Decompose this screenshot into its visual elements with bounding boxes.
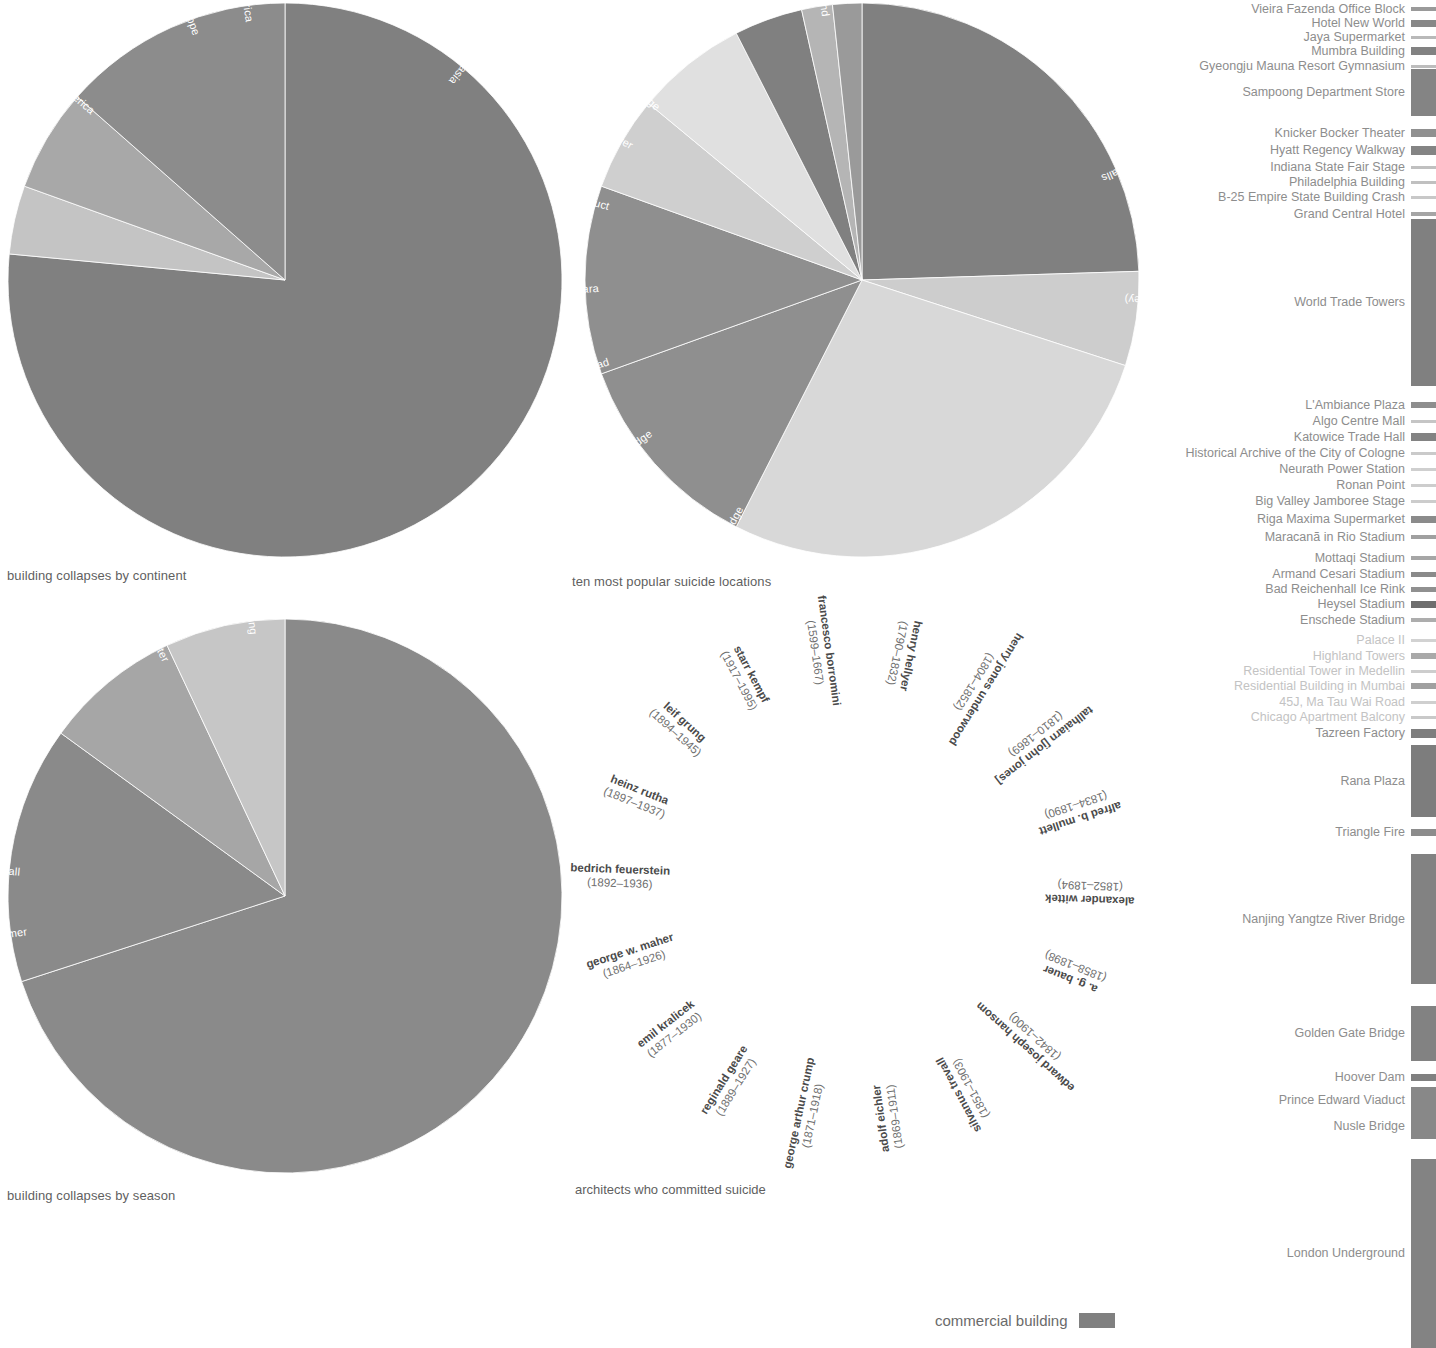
legend-key-commercial-building: commercial building [935,1312,1115,1329]
legend-item[interactable]: Enschede Stadium [1130,618,1436,622]
legend-item-bar [1411,166,1436,169]
legend-item-bar [1411,129,1436,137]
legend-item[interactable]: Heysel Stadium [1130,601,1436,608]
legend-item-bar [1411,535,1436,539]
legend-item-bar [1411,65,1436,68]
legend-item[interactable]: Triangle Fire [1130,829,1436,836]
pie-suicide-svg: london undergroundniagra fallsthe gap (s… [572,2,1152,558]
legend-item-bar [1411,556,1436,560]
legend-item-bar [1411,701,1436,704]
legend-item-bar [1411,516,1436,523]
legend-item-bar [1411,670,1436,673]
legend-item[interactable]: Armand Cesari Stadium [1130,572,1436,577]
legend-item-label: Mottaqi Stadium [1315,551,1411,565]
legend-item-label: 45J, Ma Tau Wai Road [1279,695,1411,709]
legend-item-label: Mumbra Building [1311,44,1411,58]
legend-item-bar [1411,500,1436,503]
legend-item-label: Algo Centre Mall [1313,414,1411,428]
legend-item[interactable]: Jaya Supermarket [1130,36,1436,39]
legend-item-label: Knicker Bocker Theater [1275,126,1411,140]
legend-item[interactable]: Bad Reichenhall Ice Rink [1130,587,1436,592]
legend-item-label: Indiana State Fair Stage [1270,160,1411,174]
legend-item[interactable]: Residential Building in Mumbai [1130,683,1436,689]
legend-item-label: Triangle Fire [1335,825,1411,839]
legend-item[interactable]: L'Ambiance Plaza [1130,402,1436,408]
incident-legend-list: Vieira Fazenda Office BlockHotel New Wor… [1130,0,1436,1344]
legend-item[interactable]: Highland Towers [1130,653,1436,659]
legend-item[interactable]: London Underground [1130,1159,1436,1348]
legend-item-label: Sampoong Department Store [1242,85,1411,99]
legend-item[interactable]: Katowice Trade Hall [1130,433,1436,441]
legend-item-label: B-25 Empire State Building Crash [1218,190,1411,204]
caption-architects: architects who committed suicide [575,1182,766,1197]
legend-item-label: Enschede Stadium [1300,613,1411,627]
pie-continent-svg: asiasouth americaeuropenorth america [4,2,564,558]
caption-suicide: ten most popular suicide locations [572,574,771,589]
legend-item-bar [1411,181,1436,184]
legend-item[interactable]: Residential Tower in Medellin [1130,670,1436,673]
legend-item[interactable]: Knicker Bocker Theater [1130,129,1436,137]
legend-item[interactable]: Mumbra Building [1130,47,1436,55]
legend-item-label: Tazreen Factory [1315,726,1411,740]
legend-item-label: Heysel Stadium [1317,597,1411,611]
chart-ten-most-popular-suicide-locations: london undergroundniagra fallsthe gap (s… [572,2,1152,602]
legend-item-label: London Underground [1287,1246,1411,1260]
caption-continent: building collapses by continent [7,568,186,583]
legend-item[interactable]: Riga Maxima Supermarket [1130,516,1436,523]
legend-item-label: L'Ambiance Plaza [1305,398,1411,412]
legend-item[interactable]: 45J, Ma Tau Wai Road [1130,701,1436,704]
chart-building-collapses-by-season: springsummerfallwinter building collapse… [4,618,564,1218]
legend-item[interactable]: Historical Archive of the City of Cologn… [1130,452,1436,455]
legend-item[interactable]: Neurath Power Station [1130,468,1436,471]
legend-item-bar [1411,1113,1436,1139]
legend-item-label: World Trade Towers [1294,295,1411,309]
legend-item[interactable]: Hotel New World [1130,20,1436,27]
legend-item[interactable]: Ronan Point [1130,484,1436,487]
legend-item-bar [1411,1159,1436,1348]
legend-item-bar [1411,829,1436,836]
legend-item-bar [1411,618,1436,622]
legend-item[interactable]: Palace II [1130,639,1436,642]
pie-slice-label: fall [5,864,21,877]
legend-item[interactable]: Chicago Apartment Balcony [1130,716,1436,719]
chart-building-collapses-by-continent: asiasouth americaeuropenorth america bui… [4,2,564,602]
chart-architects-who-committed-suicide: francesco borromini(1599–1667)henry hell… [570,600,1130,1220]
legend-item-label: Residential Building in Mumbai [1234,679,1411,693]
pie-slice-label: nusle bridge [607,64,662,113]
legend-item[interactable]: Algo Centre Mall [1130,420,1436,423]
legend-item-bar [1411,572,1436,577]
legend-item-bar [1411,587,1436,592]
legend-item[interactable]: World Trade Towers [1130,219,1436,386]
legend-item-label: Rana Plaza [1340,774,1411,788]
legend-item[interactable]: Philadelphia Building [1130,181,1436,184]
legend-item-bar [1411,683,1436,689]
legend-item-bar [1411,69,1436,116]
legend-item[interactable]: Mottaqi Stadium [1130,556,1436,560]
legend-item[interactable]: Tazreen Factory [1130,729,1436,738]
legend-item[interactable]: Big Valley Jamboree Stage [1130,500,1436,503]
legend-item[interactable]: Rana Plaza [1130,745,1436,817]
legend-item-bar [1411,745,1436,817]
legend-item[interactable]: Nusle Bridge [1130,1113,1436,1139]
legend-item[interactable]: Hyatt Regency Walkway [1130,146,1436,155]
legend-item-bar [1411,468,1436,471]
legend-item[interactable]: Sampoong Department Store [1130,69,1436,116]
legend-item-label: Nusle Bridge [1333,1119,1411,1133]
legend-item[interactable]: B-25 Empire State Building Crash [1130,196,1436,199]
legend-item[interactable]: Prince Edward Viaduct [1130,1087,1436,1113]
legend-item[interactable]: Maracanã in Rio Stadium [1130,535,1436,539]
legend-item[interactable]: Gyeongju Mauna Resort Gymnasium [1130,65,1436,68]
legend-item-bar [1411,601,1436,608]
legend-item-bar [1411,716,1436,719]
legend-item-label: Maracanã in Rio Stadium [1265,530,1411,544]
legend-item[interactable]: Golden Gate Bridge [1130,1006,1436,1061]
architect-label: adolf eichler(1869–1911) [859,1006,916,1228]
legend-item[interactable]: Vieira Fazenda Office Block [1130,7,1436,11]
legend-item[interactable]: Grand Central Hotel [1130,212,1436,216]
pie-slice-label: golden gate bridge [572,427,654,492]
legend-item[interactable]: Hoover Dam [1130,1074,1436,1081]
legend-item-label: Hoover Dam [1335,1070,1411,1084]
legend-item[interactable]: Nanjing Yangtze River Bridge [1130,854,1436,984]
legend-item[interactable]: Indiana State Fair Stage [1130,166,1436,169]
legend-item-bar [1411,402,1436,408]
